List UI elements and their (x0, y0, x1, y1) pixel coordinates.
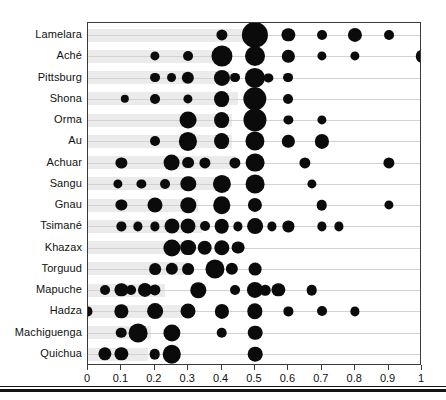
category-axis-labels: LamelaraAchéPittsburgShonaOrmaAuAchuarSa… (0, 0, 82, 400)
data-bubble (183, 51, 193, 61)
x-tick (154, 365, 155, 370)
data-bubble (214, 91, 230, 107)
data-bubble (126, 285, 136, 295)
data-bubble (211, 46, 232, 67)
category-label-torguud: Torguud (0, 262, 82, 273)
data-bubble (351, 52, 360, 61)
data-bubble (180, 112, 197, 129)
data-bubble (167, 73, 177, 83)
data-bubble (383, 157, 394, 168)
data-bubble (200, 221, 210, 231)
x-tick (354, 365, 355, 370)
data-bubble (150, 349, 161, 360)
data-bubble (283, 94, 293, 104)
data-bubble (264, 73, 273, 82)
data-bubble (248, 198, 262, 212)
data-bubble (191, 282, 206, 297)
data-bubble (150, 94, 160, 104)
data-bubble (306, 285, 317, 296)
data-bubble (230, 285, 240, 295)
data-bubble (284, 307, 293, 316)
data-bubble (272, 284, 285, 297)
data-bubble (317, 306, 327, 316)
category-label-gnau: Gnau (0, 199, 82, 210)
data-bubble (248, 325, 263, 340)
data-bubble (300, 157, 311, 168)
row-gridline (88, 248, 420, 249)
data-bubble (317, 30, 327, 40)
data-bubble (180, 240, 196, 256)
data-bubble (384, 201, 393, 210)
data-bubble (267, 222, 276, 231)
footer-rule (0, 389, 446, 392)
data-bubble (242, 22, 268, 48)
data-bubble (247, 304, 262, 319)
x-tick (321, 365, 322, 370)
category-label-sangu: Sangu (0, 177, 82, 188)
data-bubble (213, 196, 231, 214)
data-bubble (245, 132, 264, 151)
x-tick-label: 0.6 (280, 372, 295, 384)
category-label-ach-: Aché (0, 50, 82, 61)
data-bubble (100, 285, 110, 295)
data-bubble (147, 304, 163, 320)
data-bubble (245, 46, 265, 66)
data-bubble (150, 136, 160, 146)
category-label-khazax: Khazax (0, 241, 82, 252)
data-bubble (282, 28, 295, 41)
data-bubble (317, 52, 326, 61)
data-bubble (230, 73, 240, 83)
data-bubble (214, 133, 230, 149)
x-tick-label: 0.4 (213, 372, 228, 384)
data-bubble (214, 219, 229, 234)
data-bubble (214, 240, 229, 255)
category-label-quichua: Quichua (0, 348, 82, 359)
data-bubble (162, 345, 181, 364)
data-bubble (182, 263, 194, 275)
data-bubble (234, 222, 243, 231)
data-bubble (225, 263, 237, 275)
category-label-hadza: Hadza (0, 305, 82, 316)
data-bubble (216, 327, 227, 338)
data-bubble (147, 198, 162, 213)
x-tick-label: 0.7 (313, 372, 328, 384)
category-label-au: Au (0, 135, 82, 146)
footer-rule-thin (0, 386, 446, 387)
data-bubble (284, 115, 293, 124)
data-bubble (248, 347, 263, 362)
x-tick (421, 365, 422, 370)
data-bubble (317, 200, 328, 211)
data-bubble (229, 157, 240, 168)
data-bubble (213, 175, 231, 193)
data-bubble (384, 30, 394, 40)
data-bubble (260, 285, 271, 296)
data-bubble (129, 323, 148, 342)
data-bubble (282, 50, 294, 62)
category-label-lamelara: Lamelara (0, 29, 82, 40)
data-bubble (416, 50, 421, 62)
x-tick-label: 0.3 (180, 372, 195, 384)
x-tick (87, 365, 88, 370)
data-bubble (315, 134, 329, 148)
x-tick-label: 1 (418, 372, 424, 384)
data-bubble (247, 219, 263, 235)
data-bubble (160, 179, 170, 189)
data-bubble (245, 67, 265, 87)
x-tick (187, 365, 188, 370)
data-bubble (181, 219, 196, 234)
x-tick (254, 365, 255, 370)
x-tick-label: 0.2 (146, 372, 161, 384)
x-tick-label: 0.8 (347, 372, 362, 384)
category-label-achuar: Achuar (0, 156, 82, 167)
data-bubble (283, 221, 294, 232)
data-bubble (205, 259, 224, 278)
data-bubble (163, 324, 180, 341)
data-bubble (317, 115, 326, 124)
x-tick-label: 0.5 (246, 372, 261, 384)
data-bubble (232, 241, 245, 254)
data-bubble (348, 28, 362, 42)
x-tick (221, 365, 222, 370)
data-bubble (182, 157, 194, 169)
data-bubble (307, 179, 316, 188)
data-bubble (149, 263, 161, 275)
